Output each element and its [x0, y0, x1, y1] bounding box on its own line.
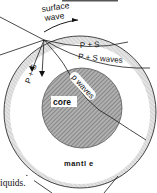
- label-core: core: [53, 97, 71, 107]
- surface-wave-arrow-icon: [72, 18, 78, 22]
- label-ps-upper: P + S: [80, 40, 100, 50]
- earth-seismic-diagram: surface wave P + S P + S waves P + S p w…: [0, 0, 157, 193]
- label-wave: wave: [43, 10, 65, 23]
- caption-fragment: iquids.: [0, 178, 26, 188]
- label-mantle: mantl e: [64, 159, 94, 168]
- top-rule: [62, 0, 118, 2]
